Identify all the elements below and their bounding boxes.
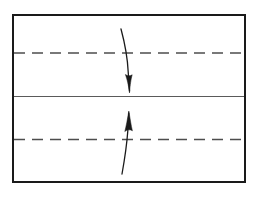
diagram-canvas: [0, 0, 256, 197]
figure-container: Two-region flow channel with opposing di…: [0, 0, 256, 197]
figure-background: [0, 0, 256, 197]
